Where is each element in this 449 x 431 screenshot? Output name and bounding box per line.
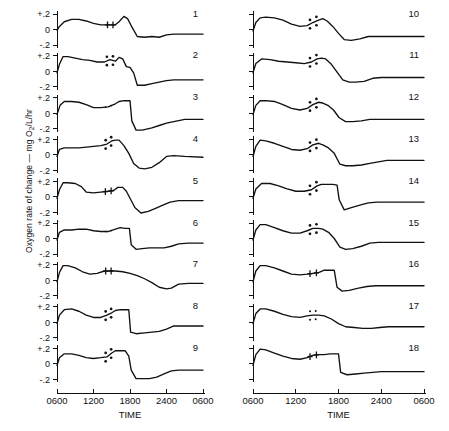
marker-dot [315, 223, 318, 226]
x-axis-title: TIME [327, 409, 350, 420]
trace-line [57, 309, 203, 334]
y-axis-title-subscript: 2 [28, 127, 35, 131]
marker-dot [110, 230, 112, 232]
y-tick-label: -.2 [39, 249, 50, 259]
marker-dot [315, 98, 318, 101]
marker-dot [309, 319, 311, 321]
panel-number-4: 4 [193, 133, 198, 144]
marker-dot [104, 318, 107, 321]
y-tick-label: 0 [45, 234, 50, 244]
y-axis-title-main: Oxygen rate of change — mg O [24, 130, 34, 253]
marker-cross [314, 351, 319, 358]
panel-15: 15 [249, 217, 424, 258]
x-tick-label: 1200 [285, 395, 306, 406]
marker-dot [315, 147, 318, 150]
y-tick-label: +.2 [37, 302, 50, 312]
marker-dot [105, 106, 107, 108]
panel-number-17: 17 [408, 300, 419, 311]
x-tick-label: 2400 [156, 395, 177, 406]
y-tick-label: +.2 [37, 218, 50, 228]
marker-dot [110, 105, 112, 107]
marker-dot [110, 348, 113, 351]
marker-dot [110, 136, 113, 139]
panel-number-2: 2 [193, 49, 198, 60]
panel-6: +.20-.26 [37, 217, 203, 260]
x-tick-label: 1800 [119, 395, 140, 406]
marker-dot [309, 109, 312, 112]
x-tick-label: 1800 [328, 395, 349, 406]
x-axis-column-1: 06001200180024000600TIME [46, 389, 213, 420]
trace-line [57, 16, 203, 37]
panel-number-16: 16 [408, 258, 419, 269]
panel-13: 13 [249, 133, 424, 174]
marker-dot [110, 144, 113, 147]
marker-cross [105, 21, 110, 28]
y-tick-label: -.2 [39, 166, 50, 176]
panel-number-9: 9 [193, 342, 198, 353]
panel-12: 12 [249, 91, 424, 132]
y-tick-label: 0 [45, 67, 50, 77]
marker-dot [315, 62, 318, 65]
y-tick-label: 0 [45, 25, 50, 35]
marker-dot [315, 138, 318, 141]
trace-line [57, 228, 203, 250]
panel-5: +.20-.25 [37, 175, 203, 218]
y-tick-label: 0 [45, 150, 50, 160]
y-tick-label: +.2 [37, 344, 50, 354]
panel-number-1: 1 [193, 8, 198, 19]
y-tick-label: 0 [45, 109, 50, 119]
y-tick-label: 0 [45, 276, 50, 286]
panel-number-11: 11 [409, 49, 419, 60]
y-tick-label: +.2 [37, 93, 50, 103]
marker-dot [112, 55, 115, 58]
marker-dot [110, 316, 113, 319]
marker-dot [315, 106, 318, 109]
x-tick-label: 2400 [371, 395, 392, 406]
y-axis-title-tail: /L/hr [24, 109, 34, 127]
x-tick-label: 0600 [192, 395, 213, 406]
trace-line [253, 266, 424, 292]
marker-dot [315, 54, 318, 57]
marker-cross [110, 21, 115, 28]
marker-dot [315, 310, 317, 312]
panel-17: 17 [249, 300, 424, 341]
marker-dot [315, 189, 318, 192]
trace-line [253, 140, 424, 166]
trace-line [57, 183, 203, 213]
trace-line [57, 266, 203, 289]
trace-line [57, 140, 203, 169]
panel-number-15: 15 [408, 217, 419, 228]
panel-number-6: 6 [193, 217, 198, 228]
panel-number-5: 5 [193, 175, 198, 186]
marker-dot [104, 147, 107, 150]
panel-10: 10 [249, 8, 424, 49]
marker-dot [309, 27, 312, 30]
x-tick-label: 0600 [46, 395, 67, 406]
x-axis-title: TIME [119, 409, 142, 420]
oxygen-rate-figure: Oxygen rate of change — mg O2/L/hr +.20-… [0, 0, 449, 431]
trace-line [253, 349, 424, 375]
panel-number-8: 8 [193, 300, 198, 311]
marker-dot [309, 184, 312, 187]
trace-line [253, 17, 424, 40]
marker-cross [314, 269, 319, 276]
marker-dot [309, 57, 312, 60]
marker-dot [309, 310, 311, 312]
y-tick-label: 0 [45, 318, 50, 328]
panel-number-10: 10 [408, 8, 419, 19]
trace-line [253, 101, 424, 122]
marker-dot [104, 139, 107, 142]
y-tick-label: +.2 [37, 9, 50, 19]
x-tick-label: 1200 [83, 395, 104, 406]
marker-dot [309, 19, 312, 22]
marker-dot [309, 65, 312, 68]
marker-dot [110, 356, 113, 359]
marker-dot [104, 360, 107, 363]
marker-dot [112, 63, 115, 66]
marker-cross [109, 187, 114, 194]
y-tick-label: -.2 [39, 82, 50, 92]
marker-dot [106, 55, 109, 58]
marker-dot [315, 318, 317, 320]
marker-dot [309, 224, 312, 227]
panel-16: 16 [249, 258, 424, 299]
